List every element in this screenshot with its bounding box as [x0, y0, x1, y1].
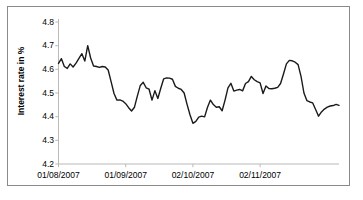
x-tick-label: 02/11/2007 [230, 170, 290, 180]
data-series-line [59, 46, 340, 124]
x-tick-label: 02/10/2007 [163, 170, 223, 180]
x-tick-label: 01/09/2007 [96, 170, 156, 180]
x-tick-label: 01/08/2007 [29, 170, 89, 180]
chart-area: Interest rate in % 4.84.74.64.54.44.34.2… [0, 0, 363, 200]
